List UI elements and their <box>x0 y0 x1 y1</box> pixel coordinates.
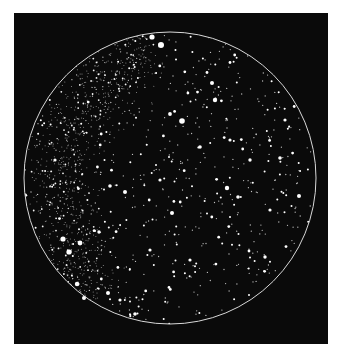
bright-star <box>179 118 185 124</box>
bright-star <box>297 194 301 198</box>
bright-star <box>97 230 100 233</box>
bright-star <box>283 118 286 121</box>
bright-star <box>77 283 80 286</box>
bright-star <box>168 112 172 116</box>
bright-star <box>198 145 202 149</box>
bright-star <box>149 34 154 39</box>
bright-star <box>268 208 271 211</box>
bright-star <box>228 138 231 141</box>
bright-star <box>60 236 65 241</box>
bright-star <box>158 178 161 181</box>
bright-star <box>108 184 112 188</box>
bright-star <box>236 195 240 199</box>
bright-stars <box>53 34 301 315</box>
bright-star <box>210 81 214 85</box>
star-map <box>0 0 342 361</box>
bright-star <box>248 158 251 161</box>
bright-star <box>118 298 121 301</box>
bright-star <box>123 190 127 194</box>
bright-star <box>225 186 229 190</box>
sky-circle-boundary <box>24 32 316 324</box>
bright-star <box>278 156 282 160</box>
bright-star <box>106 291 110 295</box>
bright-star <box>170 211 174 215</box>
bright-star <box>78 241 83 246</box>
bright-star <box>213 98 217 102</box>
bright-star <box>188 258 191 261</box>
star-field <box>15 17 311 325</box>
bright-star <box>148 248 151 251</box>
bright-star <box>158 42 164 48</box>
bright-star <box>133 312 137 316</box>
bright-star <box>263 255 266 258</box>
bright-star <box>66 249 71 254</box>
bright-star <box>53 158 56 161</box>
bright-star <box>82 296 86 300</box>
